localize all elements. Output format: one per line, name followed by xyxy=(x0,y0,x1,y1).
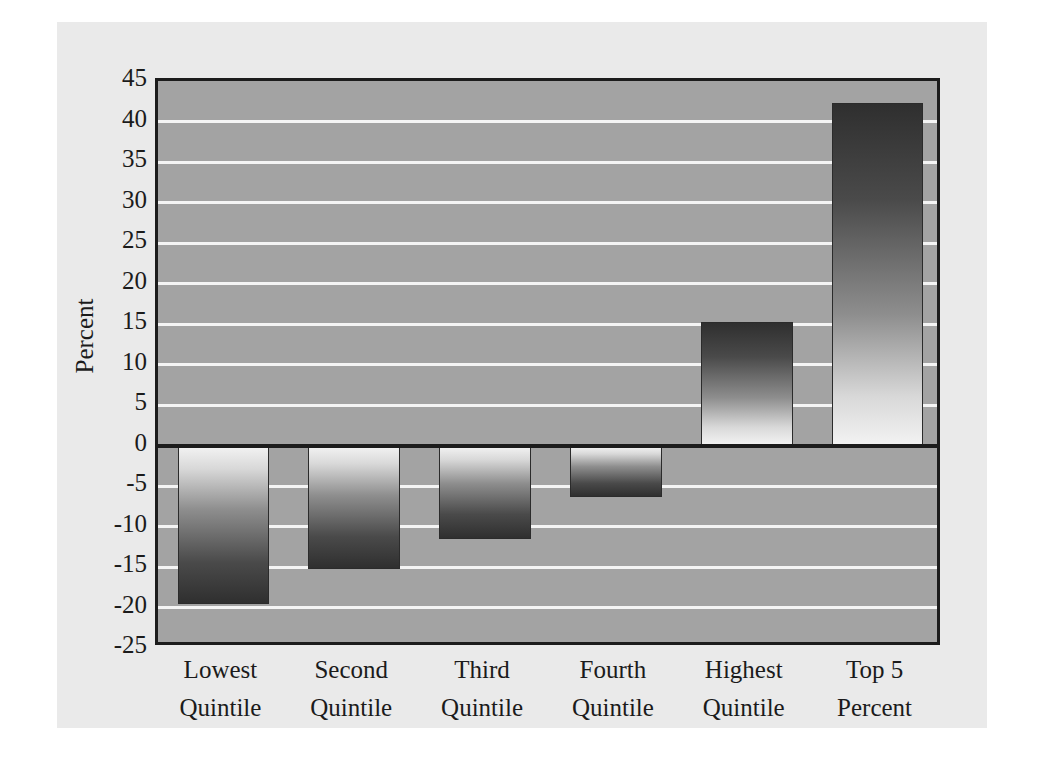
bar-third-quintile xyxy=(439,446,531,539)
x-tick-label: FourthQuintile xyxy=(548,651,679,727)
x-tick-label: LowestQuintile xyxy=(155,651,286,727)
chart-figure: Percent 454035302520151050-5-10-15-20-25… xyxy=(57,22,987,728)
gridline xyxy=(158,485,937,488)
gridline xyxy=(158,242,937,245)
gridline xyxy=(158,404,937,407)
plot-area xyxy=(155,78,940,645)
x-tick-label-line: Highest xyxy=(678,651,809,689)
y-tick-label: -10 xyxy=(67,510,147,538)
gridline xyxy=(158,282,937,285)
bar-fourth-quintile xyxy=(570,446,662,497)
x-tick-label: Top 5Percent xyxy=(809,651,940,727)
x-tick-label-line: Quintile xyxy=(417,689,548,727)
x-tick-label: HighestQuintile xyxy=(678,651,809,727)
gridline xyxy=(158,161,937,164)
bar-lowest-quintile xyxy=(178,446,270,605)
y-tick-label: 5 xyxy=(67,388,147,416)
gridline xyxy=(158,201,937,204)
gridline xyxy=(158,566,937,569)
bar-top-5-percent xyxy=(832,103,924,446)
y-axis-tick-labels: 454035302520151050-5-10-15-20-25 xyxy=(57,78,147,645)
x-tick-label-line: Lowest xyxy=(155,651,286,689)
x-tick-label-line: Second xyxy=(286,651,417,689)
x-tick-label-line: Quintile xyxy=(286,689,417,727)
gridline xyxy=(158,323,937,326)
y-tick-label: 35 xyxy=(67,145,147,173)
x-tick-label-line: Quintile xyxy=(548,689,679,727)
y-tick-label: -20 xyxy=(67,591,147,619)
y-tick-label: -15 xyxy=(67,550,147,578)
x-tick-label: ThirdQuintile xyxy=(417,651,548,727)
y-tick-label: 40 xyxy=(67,105,147,133)
x-axis-tick-labels: LowestQuintileSecondQuintileThirdQuintil… xyxy=(155,651,940,727)
x-tick-label-line: Quintile xyxy=(678,689,809,727)
x-tick-label-line: Top 5 xyxy=(809,651,940,689)
y-tick-label: -25 xyxy=(67,631,147,659)
y-tick-label: 45 xyxy=(67,64,147,92)
gridline xyxy=(158,363,937,366)
y-tick-label: 30 xyxy=(67,186,147,214)
x-tick-label-line: Percent xyxy=(809,689,940,727)
y-tick-label: 0 xyxy=(67,429,147,457)
bar-highest-quintile xyxy=(701,322,793,445)
y-tick-label: 10 xyxy=(67,348,147,376)
gridline xyxy=(158,525,937,528)
y-tick-label: 20 xyxy=(67,267,147,295)
gridline xyxy=(158,120,937,123)
x-tick-label-line: Fourth xyxy=(548,651,679,689)
x-tick-label: SecondQuintile xyxy=(286,651,417,727)
x-tick-label-line: Quintile xyxy=(155,689,286,727)
y-tick-label: 25 xyxy=(67,226,147,254)
x-tick-label-line: Third xyxy=(417,651,548,689)
zero-axis-line xyxy=(158,444,937,448)
y-tick-label: -5 xyxy=(67,469,147,497)
plot-inner xyxy=(158,81,937,642)
y-tick-label: 15 xyxy=(67,307,147,335)
bar-second-quintile xyxy=(308,446,400,570)
gridline xyxy=(158,606,937,609)
